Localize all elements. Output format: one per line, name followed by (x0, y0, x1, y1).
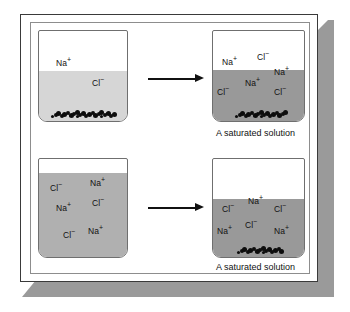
reaction-arrow-top (148, 74, 204, 83)
ion-label-cl: Cl− (63, 230, 75, 240)
ion-charge: + (285, 224, 289, 231)
ion-charge: + (285, 65, 289, 72)
ion-charge: + (101, 176, 105, 183)
ion-label-na: Na+ (245, 78, 260, 88)
ion-label-na: Na+ (56, 203, 71, 213)
ion-symbol: Na (274, 226, 285, 236)
caption-saturated-solution-bottom: A saturated solution (216, 262, 295, 272)
frame-shadow-bottom (22, 280, 334, 297)
frame-shadow-right (316, 20, 334, 292)
arrow-head (195, 74, 204, 82)
ion-symbol: Na (245, 78, 256, 88)
arrow-head (195, 203, 204, 211)
ion-label-cl: Cl− (92, 198, 104, 208)
ion-label-na: Na+ (90, 178, 105, 188)
ion-symbol: Na (248, 196, 259, 206)
arrow-shaft (148, 78, 196, 80)
ion-symbol: Na (56, 58, 67, 68)
ion-label-na: Na+ (274, 226, 289, 236)
ion-charge: + (67, 201, 71, 208)
ion-labels-group: Cl−Na+Na+Cl−Cl−Na+ (38, 158, 128, 258)
ion-charge: − (71, 228, 75, 235)
ion-symbol: Na (56, 203, 67, 213)
ion-symbol: Na (217, 226, 228, 236)
ion-label-cl: Cl− (222, 204, 234, 214)
ion-symbol: Na (274, 67, 285, 77)
ion-charge: − (282, 85, 286, 92)
ion-label-cl: Cl− (217, 87, 229, 97)
ion-symbol: Cl (63, 230, 71, 240)
ion-charge: − (253, 218, 257, 225)
arrow-shaft (148, 207, 196, 209)
ion-label-na: Na+ (222, 57, 237, 67)
ion-charge: + (256, 76, 260, 83)
ion-symbol: Na (90, 178, 101, 188)
ion-charge: + (99, 224, 103, 231)
ion-symbol: Cl (92, 78, 100, 88)
ion-charge: + (67, 56, 71, 63)
ion-label-cl: Cl− (92, 78, 104, 88)
ion-charge: − (282, 202, 286, 209)
ion-labels-group: Cl−Na+Cl−Na+Cl−Na+ (212, 158, 305, 258)
ion-symbol: Cl (274, 87, 282, 97)
ion-charge: − (230, 202, 234, 209)
ion-label-cl: Cl− (274, 204, 286, 214)
ion-charge: − (265, 50, 269, 57)
ion-label-cl: Cl− (245, 220, 257, 230)
ion-label-cl: Cl− (257, 52, 269, 62)
ion-symbol: Cl (257, 52, 265, 62)
ion-charge: + (259, 194, 263, 201)
ion-label-na: Na+ (248, 196, 263, 206)
ion-labels-group: Na+Cl− (38, 30, 128, 122)
caption-saturated-solution-top: A saturated solution (216, 128, 295, 138)
figure-container: Na+Cl− Na+Cl−Na+Na+Cl−Cl− A saturated so… (0, 0, 350, 312)
ion-charge: + (233, 55, 237, 62)
ion-symbol: Cl (222, 204, 230, 214)
ion-label-na: Na+ (274, 67, 289, 77)
ion-symbol: Cl (245, 220, 253, 230)
ion-label-na: Na+ (88, 226, 103, 236)
ion-label-cl: Cl− (50, 183, 62, 193)
ion-symbol: Cl (50, 183, 58, 193)
ion-charge: − (225, 85, 229, 92)
ion-charge: − (100, 196, 104, 203)
ion-labels-group: Na+Cl−Na+Na+Cl−Cl− (212, 30, 305, 122)
ion-label-cl: Cl− (274, 87, 286, 97)
ion-label-na: Na+ (56, 58, 71, 68)
ion-symbol: Cl (217, 87, 225, 97)
ion-label-na: Na+ (217, 226, 232, 236)
ion-symbol: Cl (92, 198, 100, 208)
ion-symbol: Na (222, 57, 233, 67)
reaction-arrow-bottom (148, 203, 204, 212)
ion-charge: − (100, 76, 104, 83)
ion-charge: + (228, 224, 232, 231)
ion-symbol: Na (88, 226, 99, 236)
ion-symbol: Cl (274, 204, 282, 214)
ion-charge: − (58, 181, 62, 188)
